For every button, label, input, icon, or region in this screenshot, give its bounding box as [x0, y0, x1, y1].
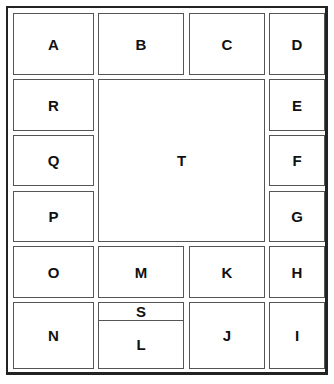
cell-label: G: [291, 208, 303, 225]
cell-e: E: [269, 79, 325, 131]
cell-label: L: [136, 336, 145, 353]
cell-label: A: [48, 36, 59, 53]
cell-label: J: [223, 327, 231, 344]
cell-d: D: [269, 13, 325, 75]
cell-label: K: [222, 264, 233, 281]
cell-m: M: [98, 246, 184, 298]
cell-k: K: [189, 246, 265, 298]
cell-label: N: [48, 327, 59, 344]
cell-b: B: [98, 13, 184, 75]
cell-label: H: [292, 264, 303, 281]
cell-s-l: S L: [98, 302, 184, 369]
cell-c: C: [189, 13, 265, 75]
cell-h: H: [269, 246, 325, 298]
cell-l: L: [99, 321, 183, 368]
cell-label: S: [136, 303, 146, 320]
cell-label: I: [295, 327, 299, 344]
cell-f: F: [269, 135, 325, 186]
cell-n: N: [13, 302, 94, 369]
cell-label: R: [48, 97, 59, 114]
cell-t: T: [98, 79, 265, 242]
cell-o: O: [13, 246, 94, 298]
cell-label: M: [135, 264, 148, 281]
cell-label: T: [177, 152, 186, 169]
cell-s: S: [99, 303, 183, 321]
cell-j: J: [189, 302, 265, 369]
cell-a: A: [13, 13, 94, 75]
cell-q: Q: [13, 135, 94, 186]
cell-label: B: [136, 36, 147, 53]
cell-r: R: [13, 79, 94, 131]
cell-label: F: [292, 152, 301, 169]
cell-p: P: [13, 191, 94, 242]
cell-label: Q: [48, 152, 60, 169]
cell-i: I: [269, 302, 325, 369]
cell-label: C: [222, 36, 233, 53]
cell-label: O: [48, 264, 60, 281]
cell-label: E: [292, 97, 302, 114]
cell-label: D: [292, 36, 303, 53]
cell-g: G: [269, 191, 325, 242]
cell-label: P: [48, 208, 58, 225]
